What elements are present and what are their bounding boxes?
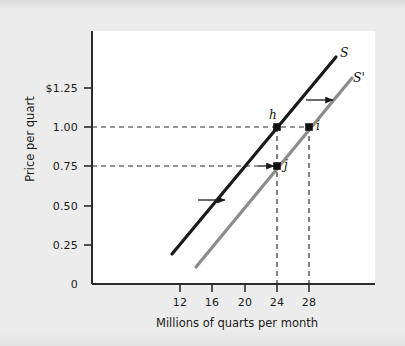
x-axis-ticks — [180, 284, 309, 292]
curve-label-s: S — [340, 45, 349, 60]
x-axis-title: Millions of quarts per month — [92, 316, 382, 330]
point-label-i: i — [316, 119, 320, 133]
x-tick-label-20: 20 — [238, 296, 252, 309]
chart-figure: $1.25 1.00 0.75 0.50 0.25 0 12 16 20 24 … — [0, 0, 405, 346]
y-tick-label-025: 0.25 — [16, 239, 78, 252]
supply-curve-s-prime — [196, 78, 352, 267]
x-tick-label-12: 12 — [173, 296, 187, 309]
supply-curve-s — [172, 57, 336, 254]
y-axis-title: Price per quart — [23, 79, 37, 199]
x-tick-label-24: 24 — [270, 296, 284, 309]
y-tick-label-0: 0 — [16, 278, 78, 291]
y-tick-label-050: 0.50 — [16, 200, 78, 213]
point-j-marker — [273, 162, 281, 170]
axis-lines — [92, 31, 375, 284]
curve-label-s-prime: S' — [353, 70, 365, 85]
point-h-marker — [273, 123, 281, 131]
x-tick-label-28: 28 — [302, 296, 316, 309]
point-label-j: j — [284, 158, 288, 172]
data-points — [273, 123, 313, 170]
point-i-marker — [305, 123, 313, 131]
point-label-h: h — [269, 108, 277, 122]
y-axis-ticks — [84, 88, 92, 245]
x-tick-label-16: 16 — [205, 296, 219, 309]
